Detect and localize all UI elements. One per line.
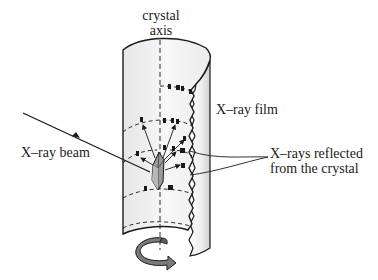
- reflected-xrays-label: X–rays reflected from the crystal: [270, 146, 363, 176]
- crystal-axis-label: crystal axis: [139, 8, 183, 38]
- rotation-arrow-icon: [136, 238, 176, 270]
- crystal-axis-label-line2: axis: [139, 23, 183, 38]
- xray-diffraction-diagram: [0, 0, 378, 280]
- xray-film-label: X–ray film: [216, 102, 278, 117]
- xray-beam-label: X–ray beam: [21, 145, 90, 160]
- reflected-label-line1: X–rays reflected: [270, 146, 363, 161]
- reflected-label-line2: from the crystal: [270, 161, 363, 176]
- crystal-axis-label-line1: crystal: [139, 8, 183, 23]
